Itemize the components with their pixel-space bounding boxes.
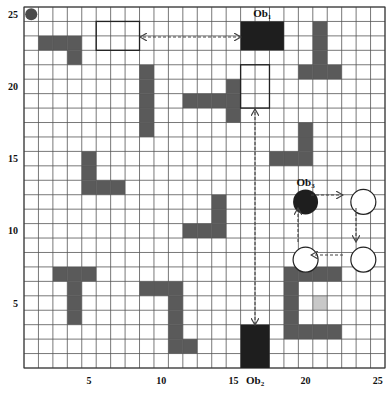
obstacle-cell-lower-mid-l [168, 296, 182, 310]
obstacle-cell-right-c [313, 325, 327, 339]
obstacle-cell-right-c [284, 325, 298, 339]
obstacle-cell-top-right-l [313, 50, 327, 64]
obstacle-cell-right-c [327, 267, 341, 281]
obstacle-cell-lower-mid-l [168, 310, 182, 324]
y-tick-label: 20 [8, 81, 18, 92]
ghost-ob3-step2 [351, 247, 376, 272]
x-tick-label: 15 [228, 375, 238, 386]
obstacle-cell-left-l [111, 180, 125, 194]
obstacle-cell-top-right-l [313, 21, 327, 35]
obstacle-cell-center-t [226, 94, 240, 108]
obstacle-cell-lower-mid-l [168, 339, 182, 353]
obstacle-cell-right-c [327, 325, 341, 339]
obstacle-cell-center-t [212, 94, 226, 108]
y-tick-label: 5 [13, 298, 18, 309]
obstacle-cell-top-left-l [53, 36, 67, 50]
obstacle-cell-lower-mid-l [154, 281, 168, 295]
obstacle-cell-right-c [284, 310, 298, 324]
dynamic-obstacle-ob1 [241, 21, 284, 50]
obstacle-cell-col9-bar [140, 65, 154, 79]
label-ob1: Ob1 [253, 7, 272, 21]
obstacle-cell-lower-left-t [67, 267, 81, 281]
obstacle-cell-right-c [284, 281, 298, 295]
obstacle-cell-lower-mid-l [168, 281, 182, 295]
dynamic-obstacle-ob2 [241, 325, 270, 368]
start-marker-icon [25, 8, 37, 20]
obstacle-cell-mid-l [212, 224, 226, 238]
obstacle-cell-mid-l [212, 195, 226, 209]
grid-map-diagram: Ob1Ob2Ob3510152025510152025 [0, 0, 391, 399]
obstacle-cell-lower-mid-l [183, 339, 197, 353]
obstacle-cell-center-t [226, 79, 240, 93]
x-tick-label: 20 [301, 375, 311, 386]
obstacle-cell-lower-mid-l [140, 281, 154, 295]
obstacle-cell-left-l [82, 166, 96, 180]
obstacle-cell-top-right-l [298, 65, 312, 79]
x-tick-label: 25 [373, 375, 383, 386]
predicted-positions [96, 21, 376, 272]
obstacle-cell-left-l [96, 180, 110, 194]
obstacle-cell-center-t [226, 108, 240, 122]
ghost-ob3-step1 [351, 189, 376, 214]
obstacle-cell-col9-bar [140, 108, 154, 122]
obstacle-cell-lower-left-t [67, 281, 81, 295]
obstacle-cell-right-c [313, 267, 327, 281]
ghost-ob3-step3 [293, 247, 318, 272]
label-ob3: Ob3 [296, 176, 315, 190]
obstacle-cell-left-l [82, 151, 96, 165]
label-ob2: Ob2 [246, 374, 265, 388]
obstacle-cell-right-c [284, 296, 298, 310]
obstacle-cell-top-left-l [38, 36, 52, 50]
obstacle-cell-lower-left-t [82, 267, 96, 281]
obstacle-cell-right-l [269, 151, 283, 165]
y-tick-label: 25 [8, 9, 18, 20]
obstacle-cell-top-right-l [313, 65, 327, 79]
obstacle-cell-top-right-l [313, 36, 327, 50]
obstacle-cell-center-t [183, 94, 197, 108]
obstacle-cell-center-t [197, 94, 211, 108]
obstacle-cell-col9-bar [140, 123, 154, 137]
obstacle-cell-right-l [298, 137, 312, 151]
y-tick-label: 15 [8, 153, 18, 164]
obstacle-cell-mid-l [212, 209, 226, 223]
obstacle-cell-top-right-l [327, 65, 341, 79]
y-tick-label: 10 [8, 225, 18, 236]
light-cell [313, 296, 327, 310]
dynamic-obstacle-ob3 [293, 189, 318, 214]
obstacle-cell-lower-left-t [67, 296, 81, 310]
obstacle-cell-top-left-l [67, 36, 81, 50]
obstacle-cell-lower-left-t [53, 267, 67, 281]
x-tick-label: 5 [86, 375, 91, 386]
obstacle-cell-right-l [298, 151, 312, 165]
obstacle-cell-col9-bar [140, 79, 154, 93]
grid-map: Ob1Ob2Ob3510152025510152025 [0, 0, 391, 399]
obstacle-cell-lower-left-t [67, 310, 81, 324]
obstacle-cell-top-left-l [67, 50, 81, 64]
obstacle-cell-left-l [82, 180, 96, 194]
obstacle-cell-col9-bar [140, 94, 154, 108]
obstacle-cell-lower-mid-l [168, 325, 182, 339]
obstacle-cell-mid-l [183, 224, 197, 238]
obstacle-cell-right-l [298, 123, 312, 137]
obstacle-cell-right-c [284, 267, 298, 281]
obstacle-cell-right-l [284, 151, 298, 165]
obstacle-cell-right-c [298, 325, 312, 339]
obstacle-cell-mid-l [197, 224, 211, 238]
x-tick-label: 10 [156, 375, 166, 386]
